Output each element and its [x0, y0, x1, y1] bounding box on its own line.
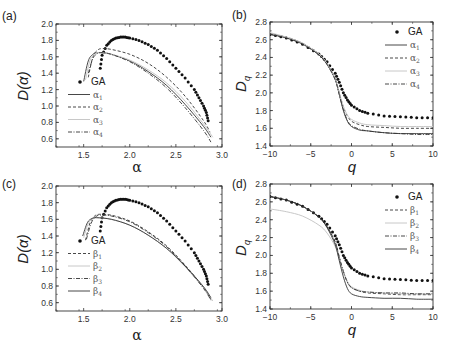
x-tick-label: 3.0	[216, 314, 228, 324]
ga-data-point	[432, 279, 435, 282]
ga-data-point	[410, 279, 413, 282]
y-axis-label: Dq	[232, 240, 252, 256]
y-tick-label: 1.8	[255, 106, 267, 116]
ga-data-point	[187, 243, 190, 246]
panel-d: −10−505101.41.61.82.02.22.42.62.8(d)DqqG…	[232, 177, 438, 338]
plot-frame	[56, 186, 222, 311]
series-line	[86, 214, 211, 299]
ga-data-point	[177, 233, 180, 236]
series-line	[270, 33, 433, 127]
ga-data-point	[355, 107, 358, 110]
series-line	[270, 197, 433, 300]
ga-data-point	[415, 116, 418, 119]
y-tick-label: 2.4	[255, 52, 267, 62]
ga-data-point	[194, 254, 197, 257]
legend: GAβ1β2β3β4	[68, 235, 106, 297]
ga-data-point	[144, 204, 147, 207]
ga-data-point	[100, 221, 103, 224]
ga-data-point	[205, 114, 208, 117]
y-tick-label: 0.6	[41, 134, 53, 144]
ga-data-point	[404, 116, 407, 119]
ga-data-point	[99, 225, 102, 228]
series-line	[270, 34, 433, 133]
ga-data-point	[171, 226, 174, 229]
x-tick-label: 5	[390, 149, 395, 159]
series-line	[84, 218, 213, 301]
ga-data-point	[366, 112, 369, 115]
y-tick-label: 2.0	[255, 250, 267, 260]
legend-label: GA	[91, 76, 106, 87]
ga-data-point	[147, 205, 150, 208]
x-tick-label: 3.0	[216, 150, 228, 160]
y-tick-label: 1.2	[41, 85, 53, 95]
y-tick-label: 2.0	[255, 88, 267, 98]
ga-data-point	[99, 62, 102, 65]
ga-data-point	[393, 278, 396, 281]
ga-data-point	[361, 110, 364, 113]
ga-data-point	[201, 265, 204, 268]
y-tick-label: 0.6	[41, 298, 53, 308]
ga-data-point	[159, 214, 162, 217]
ga-data-point	[393, 115, 396, 118]
y-tick-label: 1.8	[41, 198, 53, 208]
plot-area	[84, 36, 213, 142]
ga-data-point	[156, 49, 159, 52]
ga-data-point	[104, 210, 107, 213]
ga-data-point	[181, 73, 184, 76]
ga-data-point	[162, 217, 165, 220]
ga-data-point	[207, 283, 210, 286]
legend-label: GA	[91, 235, 106, 246]
ga-data-point	[201, 102, 204, 105]
y-tick-label: 2.8	[255, 179, 267, 189]
ga-data-point	[168, 60, 171, 63]
ga-data-point	[206, 280, 209, 283]
y-tick-label: 1.6	[41, 214, 53, 224]
series-line	[88, 53, 211, 142]
series-line	[270, 197, 433, 294]
y-tick-label: 1.8	[255, 268, 267, 278]
legend: GAα1α2α3α4	[68, 76, 106, 138]
legend-label: α1	[410, 40, 420, 51]
y-tick-label: 2.0	[41, 19, 53, 29]
ga-data-point	[334, 234, 337, 237]
legend-label: α2	[410, 53, 420, 64]
figure-canvas: 1.52.02.53.00.60.81.01.21.41.61.82.0(a)D…	[0, 0, 454, 355]
legend: GAβ1β2β3β4	[385, 191, 423, 255]
ga-data-point	[358, 272, 361, 275]
y-tick-label: 2.8	[255, 17, 267, 27]
ga-data-point	[338, 81, 341, 84]
y-tick-label: 1.4	[41, 68, 53, 78]
ga-data-point	[206, 117, 209, 120]
ga-data-point	[168, 223, 171, 226]
legend-marker-dot	[395, 30, 399, 34]
y-axis-label: D(α)	[14, 71, 31, 100]
ga-data-point	[364, 274, 367, 277]
x-tick-label: 2.5	[170, 314, 182, 324]
y-tick-label: 2.0	[41, 181, 53, 191]
ga-data-point	[426, 279, 429, 282]
y-tick-label: 1.4	[255, 304, 267, 314]
y-tick-label: 2.6	[255, 35, 267, 45]
series-line	[86, 53, 213, 138]
y-tick-label: 2.2	[255, 233, 267, 243]
ga-data-point	[199, 99, 202, 102]
y-tick-label: 1.0	[41, 264, 53, 274]
ga-data-point	[174, 67, 177, 70]
ga-data-point	[156, 211, 159, 214]
ga-data-point	[207, 119, 210, 122]
ga-data-point	[340, 250, 343, 253]
ga-data-point	[184, 77, 187, 80]
ga-data-point	[187, 80, 190, 83]
series-line	[88, 49, 210, 133]
ga-data-point	[335, 75, 338, 78]
ga-data-point	[339, 84, 342, 87]
ga-data-point	[131, 200, 134, 203]
x-tick-label: 5	[390, 312, 395, 322]
y-tick-label: 1.6	[255, 123, 267, 133]
y-tick-label: 1.4	[255, 141, 267, 151]
plot-frame	[56, 24, 222, 147]
ga-data-point	[383, 114, 386, 117]
ga-data-point	[205, 275, 208, 278]
ga-data-point	[336, 240, 339, 243]
legend-marker-dot	[78, 80, 82, 84]
